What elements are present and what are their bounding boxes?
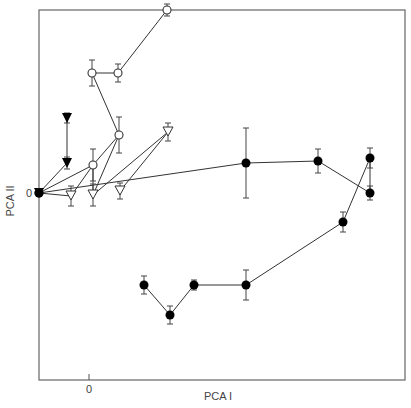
open-circles-marker xyxy=(88,69,96,77)
filled-circles-marker xyxy=(339,218,348,227)
open-circles-marker xyxy=(114,69,122,77)
filled-circles-marker xyxy=(314,157,323,166)
open-circles-marker xyxy=(89,161,97,169)
open-circles-marker xyxy=(163,6,171,14)
filled-triangles-marker xyxy=(62,113,72,123)
x-tick-label-zero: 0 xyxy=(86,383,92,395)
data-markers xyxy=(34,6,375,320)
x-axis-label: PCA I xyxy=(204,390,232,402)
y-axis-label: PCA II xyxy=(4,185,16,216)
open-triangles-marker xyxy=(115,186,125,195)
open-circles-line xyxy=(39,10,167,193)
filled-triangles-line xyxy=(39,118,67,193)
error-bars xyxy=(64,4,373,324)
open-circles-marker xyxy=(115,131,123,139)
filled-circles-marker xyxy=(242,281,251,290)
filled-circles-line xyxy=(39,158,370,315)
y-tick-label-zero: 0 xyxy=(26,187,32,199)
filled-circles-marker xyxy=(190,281,199,290)
filled-circles-marker xyxy=(166,311,175,320)
open-triangles-segment xyxy=(39,193,71,196)
filled-circles-marker xyxy=(35,189,44,198)
open-triangles-marker xyxy=(88,190,98,199)
filled-circles-marker xyxy=(140,281,149,290)
filled-circles-marker xyxy=(242,159,251,168)
open-triangles-segment xyxy=(93,132,168,195)
pca-chart: 0 0 PCA I PCA II xyxy=(0,0,411,408)
open-triangles-segment xyxy=(120,132,168,191)
filled-circles-marker xyxy=(366,189,375,198)
filled-circles-marker xyxy=(366,154,375,163)
